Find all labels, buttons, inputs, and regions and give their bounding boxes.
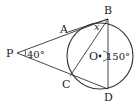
label-p: P (6, 47, 14, 60)
angle-label-x: x (94, 21, 100, 32)
label-a: A (59, 23, 69, 36)
segment-ab (68, 19, 108, 32)
geometry-figure: P A B C D O 40° 150° x (0, 0, 140, 104)
label-c: C (62, 78, 70, 91)
angle-label-p: 40° (27, 49, 45, 60)
segment-bc (70, 19, 108, 76)
label-o: O (89, 50, 98, 63)
label-b: B (104, 4, 112, 17)
center-dot (99, 55, 102, 58)
label-d: D (104, 91, 113, 104)
angle-arc-p (25, 50, 26, 56)
angle-label-o: 150° (106, 51, 130, 62)
